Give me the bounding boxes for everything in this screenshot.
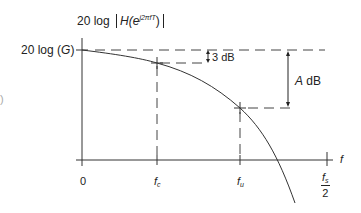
x-axis-label: f: [340, 154, 343, 165]
three-db-label: 3 dB: [212, 52, 235, 63]
response-curve: [82, 50, 295, 203]
tick-label-fc: fc: [154, 176, 161, 188]
stray-paren: ): [0, 94, 4, 105]
tick-label-fs-half: fs 2: [321, 172, 330, 199]
a-db-label: A dB: [295, 75, 321, 87]
response-plot: [0, 0, 361, 213]
gain-level-label: 20 log (G): [21, 44, 74, 56]
y-axis-label: 20 log H(ej2πfT): [77, 14, 164, 27]
tick-label-fu: fu: [237, 176, 244, 188]
tick-label-0: 0: [80, 176, 86, 187]
